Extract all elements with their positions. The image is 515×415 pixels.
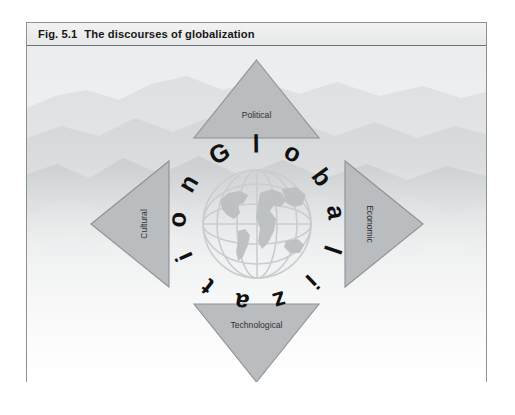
discourse-label-economic: Economic: [365, 205, 375, 243]
globe-icon: [182, 149, 332, 299]
figure-frame: Fig. 5.1The discourses of globalization: [26, 22, 487, 382]
discourse-label-political: Political: [242, 110, 272, 120]
discourse-triangle-technological[interactable]: Technological: [194, 304, 319, 382]
discourse-label-technological: Technological: [230, 320, 282, 330]
figure-artwork: Political Economic Technological Cultura…: [27, 46, 486, 382]
discourse-triangle-political[interactable]: Political: [194, 60, 319, 138]
discourse-label-cultural: Cultural: [139, 209, 149, 239]
figure-caption-bar: Fig. 5.1The discourses of globalization: [27, 23, 486, 46]
globe-container: [182, 149, 332, 299]
discourse-triangle-cultural[interactable]: Cultural: [91, 161, 169, 287]
figure-caption: Fig. 5.1The discourses of globalization: [38, 28, 255, 40]
figure-caption-title: The discourses of globalization: [84, 28, 254, 40]
figure-number: Fig. 5.1: [38, 28, 77, 40]
discourse-triangle-economic[interactable]: Economic: [345, 161, 423, 287]
